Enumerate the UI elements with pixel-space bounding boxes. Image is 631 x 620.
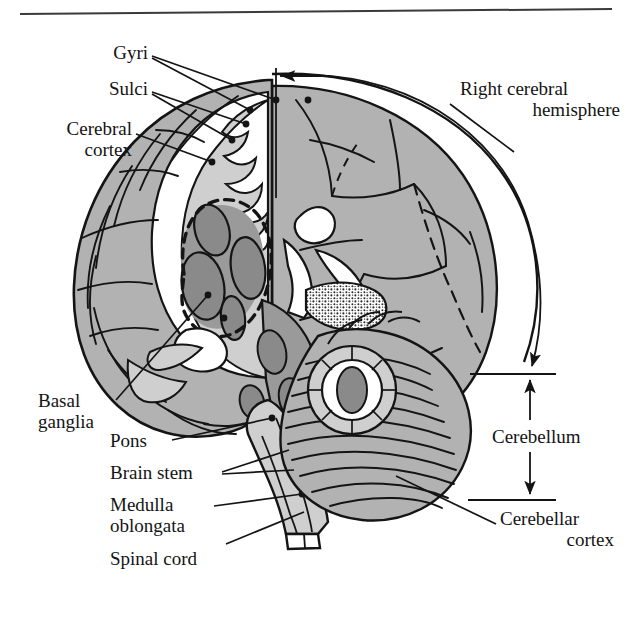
top-rule bbox=[20, 9, 612, 14]
label-spinal-cord: Spinal cord bbox=[110, 548, 250, 569]
label-sulci: Sulci bbox=[40, 78, 148, 99]
label-brain-stem: Brain stem bbox=[110, 462, 240, 483]
label-cerebellum: Cerebellum bbox=[492, 426, 622, 447]
label-pons: Pons bbox=[110, 430, 190, 451]
label-gyri: Gyri bbox=[40, 42, 148, 63]
